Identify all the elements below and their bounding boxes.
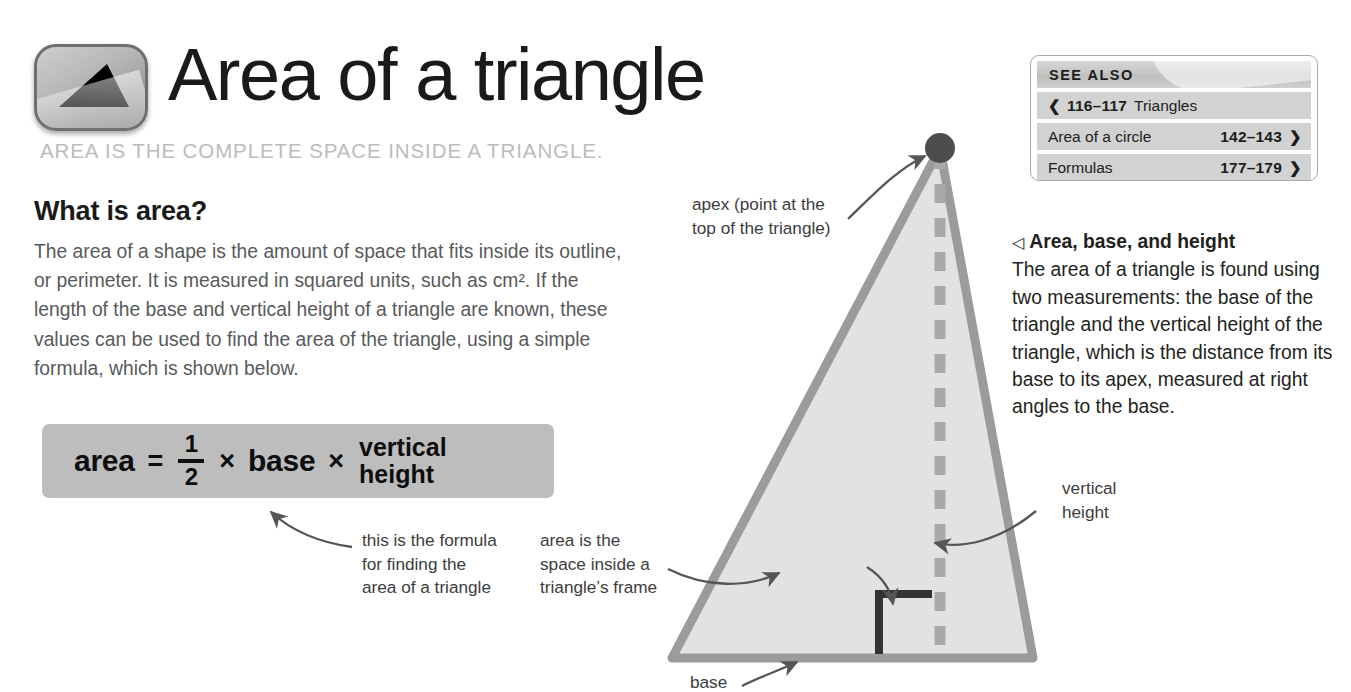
see-also-header-sheen (1149, 61, 1311, 88)
formula-height-line1: vertical (359, 434, 447, 461)
see-also-pages: 177–179 (1220, 159, 1282, 177)
caption-formula: this is the formulafor finding thearea o… (362, 529, 497, 600)
fraction-numerator: 1 (185, 432, 198, 458)
fraction-denominator: 2 (185, 464, 198, 490)
formula-box: area = 1 2 × base × vertical height (42, 424, 554, 498)
body-paragraph: The area of a shape is the amount of spa… (34, 237, 634, 383)
see-also-pages: 142–143 (1220, 128, 1282, 146)
see-also-pages: 116–117 (1067, 97, 1127, 115)
triangle-diagram (620, 120, 1090, 687)
chevron-left-icon: ❮ (1048, 97, 1061, 115)
page-title: Area of a triangle (168, 38, 705, 112)
formula-lhs: area (74, 444, 135, 478)
formula-base: base (248, 444, 315, 478)
chevron-right-icon: ❯ (1289, 159, 1302, 177)
section-heading: What is area? (34, 196, 207, 227)
apex-dot-icon (925, 133, 955, 163)
see-also-label: Triangles (1134, 97, 1197, 115)
formula-height-line2: height (359, 461, 447, 488)
see-also-header-label: SEE ALSO (1049, 67, 1134, 83)
arrow-to-formula (271, 512, 352, 547)
see-also-header: SEE ALSO (1037, 61, 1311, 88)
formula-times-1: × (219, 446, 235, 477)
formula-times-2: × (328, 446, 344, 477)
page-subtitle: AREA IS THE COMPLETE SPACE INSIDE A TRIA… (40, 141, 603, 162)
see-also-row-triangles[interactable]: ❮ 116–117 Triangles (1037, 92, 1311, 119)
triangle-shape (672, 148, 1033, 658)
chevron-right-icon: ❯ (1289, 128, 1302, 146)
formula-equals: = (148, 446, 164, 477)
formula-fraction-half: 1 2 (178, 432, 204, 489)
formula-vertical-height: vertical height (359, 434, 447, 488)
triangle-logo-icon (34, 44, 148, 131)
